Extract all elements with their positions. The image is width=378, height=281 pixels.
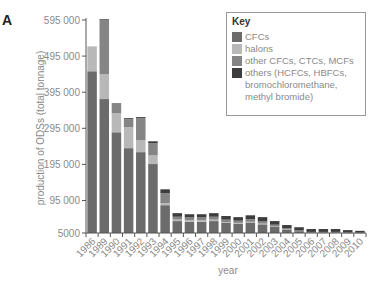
bar-segment [221,216,230,220]
bar-segment [124,118,133,119]
bar-segment [270,221,279,225]
bar-segment [160,193,169,203]
bar-segment [87,46,96,71]
bar-segment [185,220,194,221]
bar-segment [185,222,194,233]
bar-segment [233,217,242,221]
legend-label: others (HCFCs, HBFCs, bromochloromethane… [245,67,360,103]
bar-segment [258,217,267,221]
legend-item-other-cfcs: other CFCs, CTCs, MCFs [232,55,360,67]
bar-segment [258,224,267,225]
bar-segment [112,132,121,233]
bar-segment [221,222,230,223]
bar-segment [100,19,109,20]
bar-segment [209,213,218,217]
legend-item-cfcs: CFCs [232,31,360,43]
bar-segment [185,217,194,220]
bar-segment [270,227,279,233]
bar-segment [306,229,315,232]
bar-segment [100,20,109,74]
legend: Key CFCs halons other CFCs, CTCs, MCFs o… [226,12,366,116]
bar-segment [331,232,340,233]
bar-segment [355,231,364,233]
bar-segment [124,127,133,148]
bar-segment [148,155,157,164]
y-axis: 500095 000195 000295 000395 000495 00059… [44,15,86,239]
bar-segment [197,222,206,233]
y-tick-label: 5000 [58,228,81,239]
bar-segment [209,217,218,220]
bar-segment [258,221,267,223]
bar-segment [197,214,206,217]
bar-segment [185,214,194,217]
bar-segment [258,224,267,233]
legend-swatch-others [232,68,242,78]
bar-segment [124,119,133,127]
bar-segment [221,223,230,233]
bar-segment [197,217,206,220]
y-tick-label: 195 000 [44,159,81,170]
bar-segment [294,230,303,231]
bar-segment [246,222,255,223]
bar-segment [160,205,169,233]
bar-segment [148,164,157,233]
legend-item-halons: halons [232,43,360,55]
bar-segment [319,229,328,232]
bar-segment [294,227,303,230]
bar-segment [233,221,242,223]
y-tick-label: 95 000 [49,195,80,206]
bar-segment [136,118,145,140]
y-axis-title: production of ODSs (total tonnage) [35,51,46,206]
bar-segment [233,224,242,233]
legend-label: CFCs [245,31,269,43]
bar-segment [136,140,145,152]
bar-segment [136,152,145,233]
bar-segment [112,113,121,132]
bar-segment [246,219,255,222]
bar-segment [270,225,279,226]
legend-label: other CFCs, CTCs, MCFs [245,55,354,67]
bar-segment [160,189,169,193]
y-tick-label: 295 000 [44,123,81,134]
bar-segment [173,221,182,233]
bar-segment [331,229,340,232]
bar-segment [124,148,133,233]
bar-segment [246,215,255,219]
bar-segment [136,117,145,118]
bar-segment [221,220,230,223]
bar-segment [209,221,218,233]
bar-segment [209,220,218,221]
bar-segment [282,225,291,228]
bar-segment [87,71,96,233]
bar-segment [270,226,279,227]
legend-title: Key [232,16,360,28]
bar-segment [160,203,169,205]
y-tick-label: 495 000 [44,51,81,62]
bar-segment [173,220,182,221]
x-axis-title: year [218,265,238,276]
x-axis: 1986198919901991199219931994199519961997… [74,233,366,259]
legend-label: halons [245,43,273,55]
bar-segment [148,143,157,155]
bar-segment [282,229,291,230]
bar-segment [173,213,182,217]
bar-segment [306,232,315,233]
bar-segment [173,217,182,220]
bar-segment [197,220,206,221]
legend-item-others: others (HCFCs, HBFCs, bromochloromethane… [232,67,360,103]
bar-segment [343,230,352,232]
bar-segment [100,99,109,233]
bar-segment [319,232,328,233]
bar-segment [246,223,255,233]
y-tick-label: 595 000 [44,15,81,26]
legend-swatch-halons [232,44,242,54]
bar-segment [100,74,109,99]
bar-segment [148,141,157,143]
legend-swatch-cfcs [232,32,242,42]
legend-swatch-other-cfcs [232,56,242,66]
y-tick-label: 395 000 [44,87,81,98]
bar-segment [282,228,291,229]
bar-segment [112,103,121,113]
bar-segment [233,223,242,224]
